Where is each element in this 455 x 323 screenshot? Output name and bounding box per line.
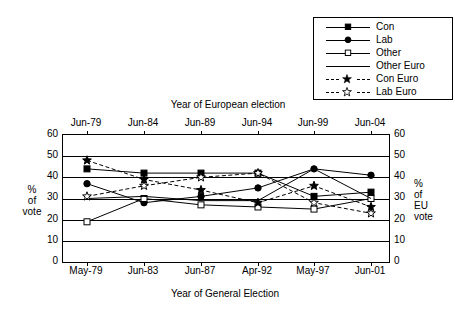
bottom-tick-label-0: May-79 (58, 265, 114, 276)
bottom-axis-title: Year of General Election (125, 288, 325, 299)
legend-swatch-con-euro (326, 73, 370, 87)
legend-swatch-con (326, 21, 370, 35)
y-tick-label-60: 60 (32, 128, 58, 139)
datapoint-other-0 (84, 219, 90, 225)
open-star-icon (342, 86, 352, 100)
chart-legend: Con Lab Other Other Euro (313, 17, 453, 100)
y-tick-label-50: 50 (32, 149, 58, 160)
y-tick-label-40: 40 (32, 170, 58, 181)
y-tick-label-30: 30 (32, 191, 58, 202)
y-right-tick-label-50: 50 (394, 149, 420, 160)
legend-label-other: Other (376, 47, 401, 58)
bottom-tick-label-1: Jun-83 (115, 265, 171, 276)
legend-item-lab-euro: Lab Euro (314, 86, 452, 100)
top-tick-label-0: Jun-79 (58, 117, 114, 128)
y-tick-label-10: 10 (32, 234, 58, 245)
datapoint-con-euro-0 (83, 156, 92, 164)
datapoint-lab-5 (368, 172, 374, 178)
open-square-icon (344, 47, 352, 61)
top-tick-label-1: Jun-84 (115, 117, 171, 128)
legend-label-lab: Lab (376, 34, 393, 45)
legend-swatch-lab-euro (326, 86, 370, 100)
filled-star-icon (342, 73, 352, 87)
legend-label-con: Con (376, 21, 394, 32)
bottom-tick-label-4: May-97 (285, 265, 341, 276)
series-layer (63, 135, 389, 262)
legend-item-lab: Lab (314, 34, 452, 48)
filled-circle-icon (344, 34, 352, 48)
series-line-con-euro (87, 160, 371, 207)
legend-label-lab-euro: Lab Euro (376, 86, 417, 97)
y-right-tick-label-30: 30 (394, 191, 420, 202)
chart-figure: Con Lab Other Other Euro (0, 0, 455, 323)
datapoint-other-2 (198, 202, 204, 208)
y-right-tick-label-10: 10 (394, 234, 420, 245)
y-tick-label-20: 20 (32, 213, 58, 224)
datapoint-con-5 (368, 189, 374, 195)
y-right-tick-label-20: 20 (394, 213, 420, 224)
top-axis-title: Year of European election (128, 99, 328, 110)
legend-item-con-euro: Con Euro (314, 73, 452, 87)
plot-area (62, 134, 390, 263)
datapoint-lab-2 (198, 193, 204, 199)
legend-item-other: Other (314, 47, 452, 61)
datapoint-lab-3 (255, 185, 261, 191)
legend-swatch-lab (326, 34, 370, 48)
y-right-tick-label-60: 60 (394, 128, 420, 139)
top-tick-label-5: Jun-04 (342, 117, 398, 128)
datapoint-lab-euro-5 (367, 209, 376, 217)
series-line-other (87, 199, 371, 222)
top-tick-label-4: Jun-99 (285, 117, 341, 128)
legend-label-other-euro: Other Euro (376, 60, 425, 71)
datapoint-lab-0 (84, 180, 90, 186)
filled-square-icon (344, 21, 352, 35)
series-line-lab-euro (87, 173, 371, 213)
bottom-tick-label-2: Jun-87 (172, 265, 228, 276)
legend-swatch-other (326, 47, 370, 61)
datapoint-con-euro-4 (310, 181, 319, 189)
datapoint-con-0 (84, 166, 90, 172)
legend-item-other-euro: Other Euro (314, 60, 452, 74)
legend-swatch-other-euro (326, 60, 370, 74)
datapoint-lab-euro-1 (140, 181, 149, 189)
datapoint-other-4 (311, 206, 317, 212)
top-tick-label-3: Jun-94 (229, 117, 285, 128)
legend-item-con: Con (314, 21, 452, 35)
top-tick-label-2: Jun-89 (172, 117, 228, 128)
bottom-tick-label-3: Apr-92 (229, 265, 285, 276)
legend-label-con-euro: Con Euro (376, 73, 418, 84)
bottom-tick-label-5: Jun-01 (342, 265, 398, 276)
y-right-tick-label-40: 40 (394, 170, 420, 181)
series-line-lab (87, 169, 371, 203)
datapoint-con-euro-2 (197, 185, 206, 193)
y-tick-label-0: 0 (32, 255, 58, 266)
